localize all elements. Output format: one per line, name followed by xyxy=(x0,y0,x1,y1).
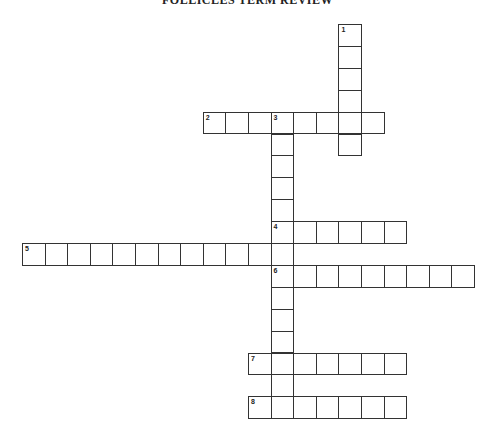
crossword-cell[interactable] xyxy=(225,112,249,135)
clue-number: 8 xyxy=(251,397,255,406)
crossword-cell[interactable] xyxy=(361,265,385,288)
crossword-cell[interactable] xyxy=(271,243,295,266)
crossword-cell[interactable] xyxy=(45,243,69,266)
crossword-cell[interactable] xyxy=(316,112,340,135)
crossword-cell[interactable] xyxy=(271,331,295,354)
clue-number: 4 xyxy=(274,222,278,231)
clue-number: 6 xyxy=(274,266,278,275)
crossword-cell[interactable] xyxy=(271,353,295,376)
crossword-cell[interactable]: 6 xyxy=(271,265,295,288)
crossword-cell[interactable] xyxy=(361,221,385,244)
crossword-cell[interactable] xyxy=(384,265,408,288)
crossword-cell[interactable] xyxy=(271,155,295,178)
clue-number: 5 xyxy=(25,244,29,253)
crossword-cell[interactable] xyxy=(361,396,385,419)
crossword-cell[interactable] xyxy=(248,243,272,266)
crossword-cell[interactable]: 4 xyxy=(271,221,295,244)
crossword-cell[interactable]: 8 xyxy=(248,396,272,419)
crossword-cell[interactable] xyxy=(361,353,385,376)
crossword-cell[interactable] xyxy=(338,353,362,376)
crossword-cell[interactable] xyxy=(112,243,136,266)
crossword-cell[interactable]: 7 xyxy=(248,353,272,376)
crossword-cell[interactable] xyxy=(338,46,362,69)
crossword-cell[interactable] xyxy=(361,112,385,135)
crossword-cell[interactable] xyxy=(271,287,295,310)
crossword-cell[interactable] xyxy=(271,396,295,419)
crossword-cell[interactable] xyxy=(316,353,340,376)
crossword-cell[interactable] xyxy=(451,265,475,288)
crossword-cell[interactable] xyxy=(203,243,227,266)
crossword-cell[interactable] xyxy=(316,221,340,244)
crossword-cell[interactable] xyxy=(135,243,159,266)
crossword-cell[interactable] xyxy=(338,90,362,113)
crossword-cell[interactable] xyxy=(293,265,317,288)
crossword-cell[interactable] xyxy=(338,112,362,135)
crossword-cell[interactable] xyxy=(271,374,295,397)
crossword-cell[interactable] xyxy=(338,134,362,157)
crossword-cell[interactable] xyxy=(384,221,408,244)
crossword-cell[interactable] xyxy=(225,243,249,266)
crossword-cell[interactable] xyxy=(90,243,114,266)
crossword-cell[interactable] xyxy=(316,265,340,288)
crossword-cell[interactable]: 2 xyxy=(203,112,227,135)
crossword-cell[interactable] xyxy=(293,396,317,419)
crossword-cell[interactable] xyxy=(271,177,295,200)
crossword-cell[interactable] xyxy=(316,396,340,419)
clue-number: 7 xyxy=(251,354,255,363)
crossword-cell[interactable] xyxy=(338,265,362,288)
crossword-cell[interactable] xyxy=(429,265,453,288)
crossword-cell[interactable] xyxy=(338,396,362,419)
crossword-cell[interactable] xyxy=(293,112,317,135)
crossword-cell[interactable] xyxy=(384,353,408,376)
crossword-cell[interactable] xyxy=(271,309,295,332)
crossword-cell[interactable] xyxy=(67,243,91,266)
crossword-cell[interactable] xyxy=(180,243,204,266)
crossword-cell[interactable] xyxy=(271,199,295,222)
crossword-cell[interactable] xyxy=(338,68,362,91)
crossword-cell[interactable] xyxy=(406,265,430,288)
crossword-cell[interactable] xyxy=(271,134,295,157)
clue-number: 1 xyxy=(341,25,345,34)
clue-number: 3 xyxy=(274,113,278,122)
crossword-cell[interactable] xyxy=(248,112,272,135)
crossword-cell[interactable]: 3 xyxy=(271,112,295,135)
crossword-cell[interactable] xyxy=(338,221,362,244)
crossword-cell[interactable] xyxy=(384,396,408,419)
crossword-cell[interactable]: 1 xyxy=(338,24,362,47)
crossword-cell[interactable] xyxy=(158,243,182,266)
crossword-cell[interactable]: 5 xyxy=(22,243,46,266)
crossword-grid: 12346578 xyxy=(0,0,495,444)
clue-number: 2 xyxy=(206,113,210,122)
crossword-cell[interactable] xyxy=(293,221,317,244)
crossword-cell[interactable] xyxy=(293,353,317,376)
